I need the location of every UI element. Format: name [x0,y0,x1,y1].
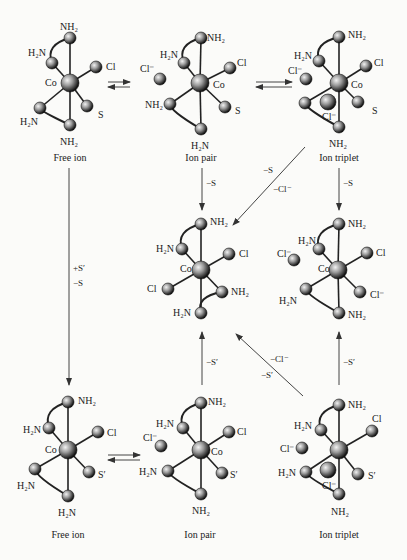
atom-ball [361,247,373,259]
atom-label: NH₂ [231,287,249,297]
atom-ball [300,283,312,295]
atom-ball [29,463,41,475]
label-triplet-minus-s: −S [343,178,353,188]
atom-label: S [235,106,241,116]
label-minus-s: −S [73,278,83,288]
chloride-ion-ball [320,94,336,110]
atom-ball [43,422,55,434]
chloride-ion-label: Cl⁻ [288,66,302,76]
atom-ball [195,397,207,409]
atom-ball [224,62,236,74]
atom-label: NH₂ [145,100,163,110]
caption-top-ion-triplet: Ion triplet [319,152,359,163]
atom-label: Cl [237,58,246,68]
cobalt-label: Co [213,80,225,90]
atom-label: H₂N [298,236,316,246]
atom-ball [333,121,345,133]
atom-label: Cl [106,62,115,72]
atom-label: S′ [368,471,376,481]
caption-bottom-ion-triplet: Ion triplet [319,529,359,540]
atom-label: NH₂ [331,507,349,517]
cobalt-center-ball [191,74,209,92]
chloride-ion-label: Cl⁻ [322,112,336,122]
atom-ball [352,96,364,108]
atom-ball [354,286,366,298]
label-pair-minus-s-prime: −S′ [206,357,218,367]
atom-label: S′ [230,470,238,480]
diagonal-arrow-bottom [236,334,303,396]
atom-ball [92,426,104,438]
chloride-ion-ball [296,442,308,454]
atom-ball [195,488,207,500]
atom-label: NH₂ [348,30,366,40]
atom-label: H₂N [278,468,296,478]
atom-label: NH₂ [60,137,78,147]
atom-ball [46,57,58,69]
atom-ball [333,399,345,411]
cobalt-label: Co [45,445,57,455]
atom-label: NH₂ [348,219,366,229]
diagram-canvas [0,0,407,560]
chloride-ion-label: Cl⁻ [140,64,154,74]
chloride-ion-label: Cl⁻ [322,481,336,491]
atom-ball [360,60,372,72]
atom-ball [81,100,93,112]
caption-top-free-ion: Free ion [53,152,86,163]
label-pair-minus-s: −S [206,178,216,188]
atom-label: NH₂ [207,33,225,43]
atom-ball [64,119,76,131]
atom-label: Cl [237,427,246,437]
atom-label: Cl [376,248,385,258]
atom-ball [178,57,190,69]
atom-ball [299,97,311,109]
atom-label: H₂N [28,48,46,58]
cobalt-label: Co [180,264,192,274]
cobalt-label: Co [351,80,363,90]
atom-label: NH₂ [60,22,78,32]
atom-label: NH₂ [210,217,228,227]
atom-ball [313,55,325,67]
atom-ball [300,466,312,478]
cobalt-label: Co [211,447,223,457]
atom-label: H₂N [156,419,174,429]
chloride-ion-ball [320,462,336,478]
chloride-ion-ball [154,73,166,85]
label-triplet-minus-s-prime: −S′ [343,357,355,367]
cobalt-center-ball [59,441,77,459]
atom-label: Cl [372,414,381,424]
label-diag-minus-s: −S [263,165,273,175]
atom-label: NH₂ [208,397,226,407]
chloride-ion-label: Cl⁻ [143,433,157,443]
atom-ball [64,32,76,44]
atom-ball [219,101,231,113]
chloride-ion-label: Cl⁻ [280,444,294,454]
atom-label: H₂N [23,425,41,435]
atom-label: H₂N [294,421,312,431]
atom-label: Cl [147,284,156,294]
cobalt-center-ball [330,441,348,459]
atom-ball [162,283,174,295]
atom-label: NH₂ [329,139,347,149]
atom-label: S′ [98,470,106,480]
atom-ball [177,422,189,434]
atom-ball [216,467,228,479]
atom-ball [164,98,176,110]
atom-label: Cl⁻ [370,290,384,300]
atom-label: H₂N [279,296,297,306]
atom-ball [216,286,228,298]
atom-label: Cl [239,249,248,259]
cobalt-center-ball [329,261,347,279]
atom-label: H₂N [139,467,157,477]
atom-label: NH₂ [348,310,366,320]
atom-ball [62,396,74,408]
atom-label: H₂N [58,508,76,518]
atom-label: H₂N [17,481,35,491]
atom-ball [333,31,345,43]
atom-ball [195,32,207,44]
atom-ball [83,466,95,478]
cobalt-center-ball [192,261,210,279]
chloride-ion-label: Cl⁻ [277,249,291,259]
cobalt-center-ball [192,441,210,459]
label-diag-minus-cl: −Cl⁻ [273,184,292,194]
atom-ball [195,307,207,319]
